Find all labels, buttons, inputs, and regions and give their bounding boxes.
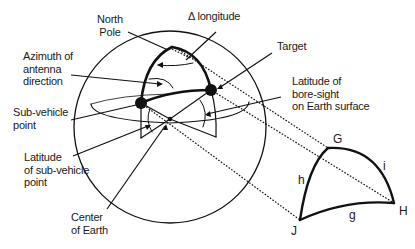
label-latitude-sub-vehicle: Latitude of sub-vehicle point bbox=[24, 151, 89, 189]
latitude-boresight-arc bbox=[200, 100, 205, 127]
latitude-sub-vehicle-arc bbox=[148, 109, 152, 132]
triangle-side-i bbox=[328, 148, 394, 203]
target-point-dot bbox=[205, 84, 217, 96]
label-latitude-sub-vehicle-line3: point bbox=[24, 176, 89, 189]
label-latitude-sub-vehicle-line1: Latitude bbox=[24, 151, 89, 164]
earth-center-dot bbox=[168, 117, 173, 122]
vertex-label-H: H bbox=[399, 205, 407, 218]
projection-line-J bbox=[141, 103, 300, 220]
label-north-pole-line1: North bbox=[97, 13, 123, 26]
label-target: Target bbox=[277, 40, 306, 53]
radius-to-target bbox=[170, 90, 211, 119]
sub-vehicle-point-dot bbox=[135, 97, 147, 109]
leader-north-pole bbox=[128, 32, 168, 50]
label-sub-vehicle-point: Sub-vehicle point bbox=[13, 106, 68, 131]
arrowhead-boresight bbox=[205, 111, 211, 117]
arrowhead-delta-longitude bbox=[157, 62, 163, 68]
label-sub-vehicle-line1: Sub-vehicle bbox=[13, 106, 68, 119]
meridian-target bbox=[172, 47, 211, 90]
label-azimuth: Azimuth of antenna direction bbox=[23, 50, 73, 88]
label-latitude-sub-vehicle-line2: of sub-vehicle bbox=[24, 164, 89, 177]
arrowhead-azimuth bbox=[157, 81, 163, 87]
label-latitude-boresight: Latitude of bore-sight on Earth surface bbox=[292, 75, 370, 113]
label-center-earth-line1: Center bbox=[71, 211, 108, 224]
side-label-g: g bbox=[349, 209, 355, 222]
label-latitude-boresight-line1: Latitude of bbox=[292, 75, 370, 88]
label-north-pole: North Pole bbox=[97, 13, 123, 38]
vertex-label-G: G bbox=[333, 133, 342, 146]
label-center-earth-line2: of Earth bbox=[71, 224, 108, 237]
label-azimuth-line2: antenna bbox=[23, 63, 73, 76]
earth-globe bbox=[74, 31, 266, 223]
label-latitude-boresight-line3: on Earth surface bbox=[292, 100, 370, 113]
label-azimuth-line1: Azimuth of bbox=[23, 50, 73, 63]
label-azimuth-line3: direction bbox=[23, 75, 73, 88]
delta-longitude-arc bbox=[158, 63, 193, 66]
leader-target bbox=[219, 53, 272, 88]
leader-sub-vehicle bbox=[71, 105, 136, 120]
triangle-side-g bbox=[300, 202, 394, 220]
vertex-label-J: J bbox=[291, 225, 297, 238]
side-label-h: h bbox=[298, 174, 304, 187]
side-label-i: i bbox=[383, 160, 385, 173]
label-latitude-boresight-line2: bore-sight bbox=[292, 88, 370, 101]
equator-back bbox=[91, 94, 170, 104]
label-delta-longitude: Δ longitude bbox=[188, 10, 240, 23]
label-north-pole-line2: Pole bbox=[97, 26, 123, 39]
label-sub-vehicle-line2: point bbox=[13, 119, 68, 132]
label-center-of-earth: Center of Earth bbox=[71, 211, 108, 236]
leader-latitude-boresight bbox=[207, 97, 281, 114]
